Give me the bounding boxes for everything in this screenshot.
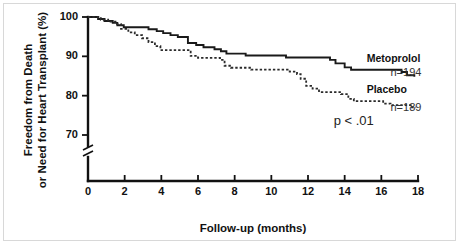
series-label-placebo: Placebo (367, 83, 407, 95)
axis-ticks (82, 17, 418, 181)
x-tick-label-14: 14 (339, 185, 352, 197)
x-tick-label-16: 16 (375, 185, 387, 197)
x-tick-label-12: 12 (302, 185, 314, 197)
axis-break-mark-2 (83, 151, 93, 156)
x-tick-label-6: 6 (195, 185, 201, 197)
y-tick-label-100: 100 (60, 10, 78, 22)
axis-tick-labels: 708090100024681012141618 (60, 10, 424, 197)
x-tick-label-18: 18 (412, 185, 424, 197)
x-tick-label-8: 8 (232, 185, 238, 197)
y-tick-label-80: 80 (66, 89, 78, 101)
series-label-metoprolol: Metoprolol (367, 52, 421, 64)
series-labels: Metoprololn=194Placebon=189 (367, 52, 422, 113)
y-tick-label-90: 90 (66, 49, 78, 61)
x-tick-label-10: 10 (265, 185, 277, 197)
survival-plot: 708090100024681012141618 Metoprololn=194… (0, 0, 459, 244)
annotations: p < .01 (334, 113, 374, 128)
x-axis-title: Follow-up (months) (200, 222, 307, 234)
y-tick-label-70: 70 (66, 128, 78, 140)
x-tick-label-0: 0 (85, 185, 91, 197)
series-n-placebo: n=189 (391, 101, 422, 113)
y-axis-title-line1: Freedom from Death (22, 44, 34, 156)
x-tick-label-2: 2 (122, 185, 128, 197)
curve-metoprolol (88, 17, 414, 77)
axes (83, 17, 418, 181)
y-axis-title-line2: or Need for Heart Transplant (%) (36, 12, 48, 189)
kaplan-meier-figure: 708090100024681012141618 Metoprololn=194… (0, 0, 459, 244)
series-n-metoprolol: n=194 (391, 66, 422, 78)
x-tick-label-4: 4 (158, 185, 165, 197)
annotation-p-value: p < .01 (334, 113, 374, 128)
